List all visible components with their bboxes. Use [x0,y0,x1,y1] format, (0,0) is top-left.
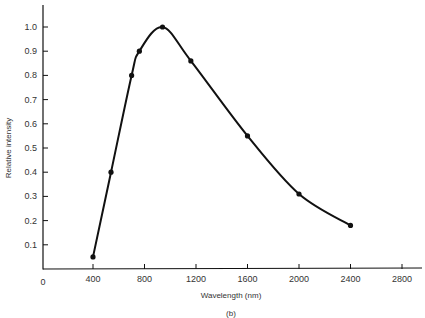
x-tick-label: 2400 [340,274,360,284]
y-tick-label: 0.7 [24,95,37,105]
y-tick-label: 0.4 [24,167,37,177]
data-curve [93,27,351,257]
data-point-marker [129,73,134,78]
data-point-marker [188,58,193,63]
y-tick-label: 0.6 [24,119,37,129]
y-axis-label: Relative intensity [4,118,13,178]
x-tick-label: 1200 [186,274,206,284]
chart-container: 0.10.20.30.40.50.60.70.80.91.04008001200… [0,0,425,318]
y-tick-label: 1.0 [24,22,37,32]
y-tick-label: 0.9 [24,46,37,56]
data-point-marker [296,191,301,196]
axes: 0.10.20.30.40.50.60.70.80.91.04008001200… [24,5,422,284]
x-axis-line [43,268,422,269]
data-point-marker [108,170,113,175]
x-axis-label: Wavelength (nm) [201,291,262,300]
x-tick-label: 2000 [289,274,309,284]
y-tick-label: 0.5 [24,143,37,153]
y-tick-label: 0.8 [24,70,37,80]
x-tick-label: 400 [85,274,100,284]
data-point-marker [348,223,353,228]
origin-label: 0 [40,277,45,287]
x-tick-label: 2800 [392,274,412,284]
data-point-marker [90,254,95,259]
figure-caption: (b) [226,309,236,318]
y-tick-label: 0.1 [24,240,37,250]
data-point-marker [245,133,250,138]
x-tick-label: 800 [137,274,152,284]
data-point-marker [137,49,142,54]
y-tick-label: 0.2 [24,216,37,226]
intensity-chart: 0.10.20.30.40.50.60.70.80.91.04008001200… [0,0,425,318]
data-point-marker [160,24,165,29]
intensity-line [93,27,351,257]
data-points [90,24,353,259]
y-tick-label: 0.3 [24,191,37,201]
x-tick-label: 1600 [237,274,257,284]
